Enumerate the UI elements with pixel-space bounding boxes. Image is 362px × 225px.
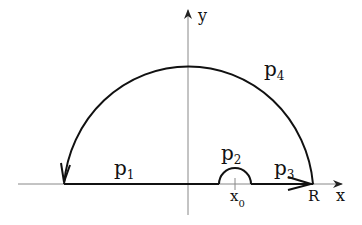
- label-p2: p2: [221, 141, 241, 167]
- label-x0: x0: [230, 187, 245, 209]
- contour-diagram: y x p4 p1 p2 p3 x0 R: [0, 0, 362, 225]
- label-p4: p4: [264, 57, 285, 83]
- label-p1: p1: [114, 156, 134, 182]
- x-axis-label: x: [336, 186, 345, 205]
- label-p3: p3: [274, 156, 294, 182]
- y-axis-label: y: [197, 6, 207, 25]
- label-R: R: [308, 187, 320, 205]
